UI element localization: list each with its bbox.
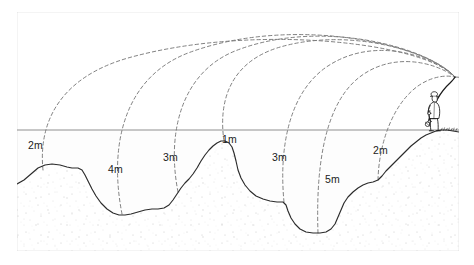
depth-label-2m-left: 2m [28, 140, 43, 151]
depth-label-5m: 5m [325, 174, 340, 185]
depth-label-3m-right: 3m [272, 152, 287, 163]
depth-label-1m: 1m [222, 134, 237, 145]
angler-upper-hand [428, 112, 431, 114]
depth-label-2m-right: 2m [373, 145, 388, 156]
figure-canvas: 2m 4m 3m 1m 3m 5m 2m [0, 0, 474, 265]
angler-hat [431, 92, 438, 97]
sky-area [17, 12, 459, 130]
depth-label-4m: 4m [108, 164, 123, 175]
depth-label-3m-left: 3m [163, 152, 178, 163]
casting-depth-diagram [0, 0, 474, 265]
angler-head [432, 96, 437, 102]
